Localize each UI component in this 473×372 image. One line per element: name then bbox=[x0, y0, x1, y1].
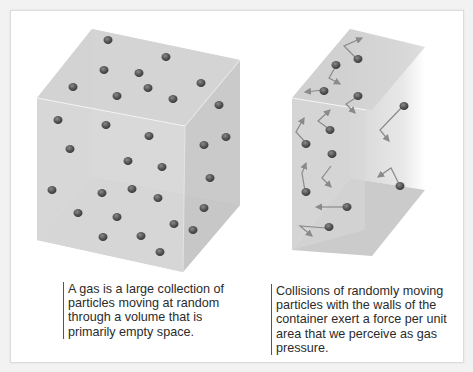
caption-line: area that we perceive as gas bbox=[276, 327, 447, 341]
caption-gas-volume: A gas is a large collection of particles… bbox=[63, 282, 224, 339]
caption-line: A gas is a large collection of bbox=[68, 282, 224, 296]
caption-line: container exert a force per unit bbox=[276, 312, 447, 326]
caption-line: Collisions of randomly moving bbox=[276, 284, 447, 298]
caption-line: particles moving at random bbox=[68, 296, 224, 310]
caption-line: particles with the walls of the bbox=[276, 298, 447, 312]
caption-line: primarily empty space. bbox=[68, 325, 224, 339]
caption-line: through a volume that is bbox=[68, 310, 224, 324]
right-container bbox=[292, 29, 425, 256]
caption-gas-pressure: Collisions of randomly moving particles … bbox=[271, 284, 447, 355]
caption-line: pressure. bbox=[276, 341, 447, 355]
